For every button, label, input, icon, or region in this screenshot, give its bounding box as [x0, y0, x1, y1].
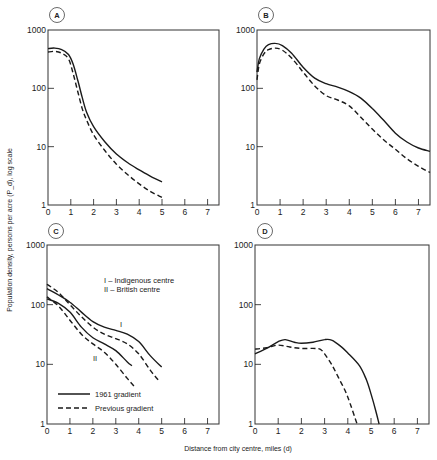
y-tick-label: 100 [31, 300, 45, 310]
x-tick-label: 0 [45, 426, 50, 436]
x-tick-label: 4 [345, 426, 350, 436]
panel-b-letter: B [263, 11, 269, 20]
gradient-1961-line [257, 43, 430, 151]
x-tick-label: 5 [159, 426, 164, 436]
panel-d: D 110100100001234567 [234, 224, 429, 437]
panel-b: B 110100100001234567 [236, 8, 430, 218]
x-axis-title: Distance from city centre, miles (d) [184, 445, 292, 453]
x-tick-label: 3 [322, 426, 327, 436]
x-tick-label: 1 [276, 426, 281, 436]
x-tick-label: 5 [160, 207, 165, 217]
panel-c-letter: C [53, 227, 59, 236]
x-tick-label: 2 [299, 426, 304, 436]
plot-frame [255, 245, 429, 424]
x-tick-label: 5 [370, 207, 375, 217]
panel-d-letter: D [262, 227, 268, 236]
x-tick-label: 6 [392, 426, 397, 436]
gradient-1961-line [47, 289, 162, 367]
x-tick-label: 0 [253, 426, 258, 436]
gradient-1961-line [48, 48, 162, 182]
x-tick-label: 0 [255, 207, 260, 217]
x-tick-label: 3 [114, 207, 119, 217]
y-axis-title: Population density, persons per acre (P_… [6, 148, 14, 312]
x-tick-label: 2 [90, 426, 95, 436]
curve-label-ii: II [93, 354, 97, 363]
y-tick-label: 10 [36, 359, 46, 369]
y-tick-label: 1000 [234, 240, 253, 250]
x-tick-label: 6 [182, 426, 187, 436]
x-tick-label: 7 [205, 207, 210, 217]
legend-solid-label: 1961 gradient [95, 390, 142, 399]
x-tick-label: 4 [136, 426, 141, 436]
x-tick-label: 4 [137, 207, 142, 217]
y-tick-label: 10 [37, 142, 47, 152]
y-tick-label: 100 [32, 83, 46, 93]
x-tick-label: 7 [415, 426, 420, 436]
y-tick-label: 1000 [27, 25, 46, 35]
previous-gradient-line [48, 51, 162, 197]
x-tick-label: 4 [347, 207, 352, 217]
x-tick-label: 1 [68, 207, 73, 217]
x-tick-label: 7 [205, 426, 210, 436]
gradient-1961-line [255, 339, 379, 424]
x-tick-label: 0 [46, 207, 51, 217]
x-tick-label: 2 [301, 207, 306, 217]
y-tick-label: 10 [244, 359, 254, 369]
x-tick-label: 2 [91, 207, 96, 217]
plot-frame [257, 30, 430, 205]
x-tick-label: 1 [278, 207, 283, 217]
legend-centre-i: I – Indigenous centre [104, 276, 174, 285]
curve-label-i: I [120, 320, 122, 329]
x-tick-label: 1 [68, 426, 73, 436]
y-tick-label: 100 [239, 300, 253, 310]
x-tick-label: 7 [416, 207, 421, 217]
y-tick-label: 1000 [236, 25, 255, 35]
previous-gradient-line [47, 297, 134, 386]
x-tick-label: 6 [393, 207, 398, 217]
y-tick-label: 10 [246, 142, 256, 152]
panel-a-letter: A [54, 11, 60, 20]
legend-centre-ii: II – British centre [104, 285, 160, 294]
panel-a: A 110100100001234567 [27, 8, 219, 218]
figure: A 110100100001234567 B 11010010000123456… [0, 0, 437, 460]
panel-c: C I – Indigenous centre II – British cen… [26, 224, 219, 437]
y-tick-label: 100 [241, 83, 255, 93]
x-tick-label: 6 [182, 207, 187, 217]
previous-gradient-line [257, 48, 430, 172]
gradient-1961-line [47, 299, 132, 366]
previous-gradient-line [255, 345, 357, 424]
y-tick-label: 1000 [26, 240, 45, 250]
x-tick-label: 3 [324, 207, 329, 217]
legend-dashed-label: Previous gradient [95, 404, 154, 413]
x-tick-label: 3 [113, 426, 118, 436]
x-tick-label: 5 [369, 426, 374, 436]
